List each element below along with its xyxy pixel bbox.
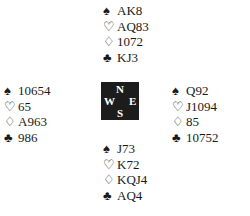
west-clubs: ♣986: [4, 130, 51, 146]
diamond-icon: ♢: [172, 114, 186, 130]
east-hearts: ♡J1094: [172, 99, 219, 115]
club-icon: ♣: [103, 188, 117, 204]
east-diamonds: ♢85: [172, 114, 219, 130]
compass-north: N: [116, 83, 124, 95]
diamond-icon: ♢: [103, 172, 117, 188]
spade-icon: ♠: [172, 83, 186, 99]
compass-box: N W E S: [101, 82, 139, 120]
spade-icon: ♠: [103, 141, 117, 157]
north-hand: ♠AK8 ♡AQ83 ♢1072 ♣KJ3: [103, 3, 149, 65]
west-hearts: ♡65: [4, 99, 51, 115]
south-spades: ♠J73: [103, 141, 147, 157]
north-spades: ♠AK8: [103, 3, 149, 19]
heart-icon: ♡: [103, 19, 117, 35]
club-icon: ♣: [172, 130, 186, 146]
north-clubs: ♣KJ3: [103, 50, 149, 66]
compass-east: E: [129, 95, 136, 107]
club-icon: ♣: [4, 130, 18, 146]
compass-west: W: [104, 95, 115, 107]
heart-icon: ♡: [103, 157, 117, 173]
north-hearts: ♡AQ83: [103, 19, 149, 35]
south-hand: ♠J73 ♡K72 ♢KQJ4 ♣AQ4: [103, 141, 147, 203]
west-spades: ♠10654: [4, 83, 51, 99]
north-diamonds: ♢1072: [103, 34, 149, 50]
east-hand: ♠Q92 ♡J1094 ♢85 ♣10752: [172, 83, 219, 145]
diamond-icon: ♢: [103, 34, 117, 50]
south-diamonds: ♢KQJ4: [103, 172, 147, 188]
west-diamonds: ♢A963: [4, 114, 51, 130]
compass-south: S: [117, 107, 123, 119]
south-hearts: ♡K72: [103, 157, 147, 173]
spade-icon: ♠: [103, 3, 117, 19]
west-hand: ♠10654 ♡65 ♢A963 ♣986: [4, 83, 51, 145]
diamond-icon: ♢: [4, 114, 18, 130]
heart-icon: ♡: [172, 99, 186, 115]
heart-icon: ♡: [4, 99, 18, 115]
club-icon: ♣: [103, 50, 117, 66]
east-spades: ♠Q92: [172, 83, 219, 99]
east-clubs: ♣10752: [172, 130, 219, 146]
south-clubs: ♣AQ4: [103, 188, 147, 204]
spade-icon: ♠: [4, 83, 18, 99]
